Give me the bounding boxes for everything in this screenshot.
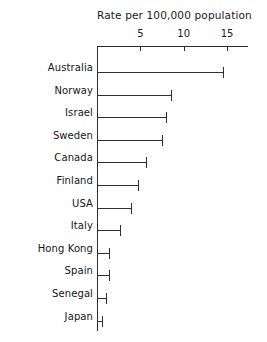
category-label: Italy	[71, 220, 93, 231]
bar-line	[97, 72, 223, 73]
bar-end-cap	[109, 248, 110, 259]
category-label: Spain	[65, 265, 93, 276]
bar-line	[97, 298, 106, 299]
category-label: Australia	[48, 62, 93, 73]
bar-line	[97, 253, 109, 254]
bar	[97, 270, 109, 281]
bar	[97, 293, 106, 304]
category-label: Israel	[65, 107, 93, 118]
bar	[97, 112, 166, 123]
bar-chart: Rate per 100,000 population 51015 Austra…	[0, 0, 267, 342]
chart-row: Australia	[0, 60, 267, 83]
bar	[97, 248, 109, 259]
bar-line	[97, 162, 146, 163]
bar-line	[97, 117, 166, 118]
chart-row: USA	[0, 196, 267, 219]
bar-line	[97, 95, 171, 96]
bar	[97, 90, 171, 101]
bar-end-cap	[106, 293, 107, 304]
bar-end-cap	[131, 203, 132, 214]
bar-end-cap	[223, 67, 224, 78]
chart-title: Rate per 100,000 population	[97, 9, 252, 21]
bar-end-cap	[109, 270, 110, 281]
bar-line	[97, 185, 138, 186]
chart-row: Finland	[0, 173, 267, 196]
category-label: USA	[72, 198, 93, 209]
x-axis-tick	[140, 46, 141, 51]
bar	[97, 203, 131, 214]
bar-end-cap	[102, 316, 103, 327]
bar-line	[97, 140, 162, 141]
category-label: Finland	[57, 175, 93, 186]
bar-end-cap	[166, 112, 167, 123]
bar-line	[97, 230, 120, 231]
category-label: Norway	[54, 85, 93, 96]
x-axis-line	[97, 46, 248, 47]
bar	[97, 135, 162, 146]
bar	[97, 67, 223, 78]
category-label: Senegal	[52, 288, 93, 299]
x-axis-tick-label: 15	[221, 28, 234, 39]
x-axis-tick	[227, 46, 228, 51]
bar	[97, 180, 138, 191]
chart-row: Spain	[0, 263, 267, 286]
x-axis-tick-label: 5	[137, 28, 143, 39]
x-axis-tick-label: 10	[177, 28, 190, 39]
bar-end-cap	[162, 135, 163, 146]
bar	[97, 225, 120, 236]
chart-row: Japan	[0, 309, 267, 332]
category-label: Sweden	[53, 130, 93, 141]
bar	[97, 316, 102, 327]
x-axis-tick	[184, 46, 185, 51]
bar-end-cap	[146, 157, 147, 168]
chart-row: Italy	[0, 218, 267, 241]
category-label: Canada	[54, 152, 93, 163]
chart-row: Senegal	[0, 286, 267, 309]
chart-row: Israel	[0, 105, 267, 128]
bar-end-cap	[171, 90, 172, 101]
bar-line	[97, 208, 131, 209]
category-label: Hong Kong	[38, 243, 93, 254]
bar-end-cap	[120, 225, 121, 236]
chart-row: Canada	[0, 150, 267, 173]
bar-line	[97, 275, 109, 276]
bar	[97, 157, 146, 168]
chart-row: Norway	[0, 83, 267, 106]
bar-end-cap	[138, 180, 139, 191]
category-label: Japan	[65, 311, 93, 322]
chart-row: Hong Kong	[0, 241, 267, 264]
chart-row: Sweden	[0, 128, 267, 151]
